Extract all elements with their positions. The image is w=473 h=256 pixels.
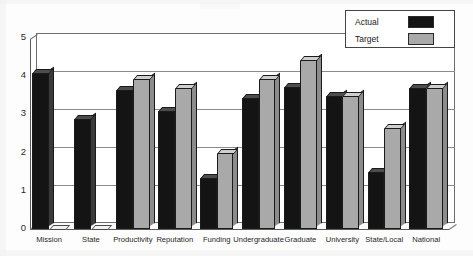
chart-legend: Actual Target	[345, 10, 455, 48]
bar-actual-state-local	[368, 172, 385, 229]
y-tick-2: 2	[12, 147, 26, 157]
bar-target-university	[342, 96, 359, 229]
legend-row-target: Target	[346, 30, 454, 48]
y-tick-3: 3	[12, 108, 26, 118]
bar-side-face	[91, 113, 96, 226]
y-tick-5: 5	[12, 32, 26, 42]
bar-side-face	[359, 90, 364, 226]
y-tick-1: 1	[12, 185, 26, 195]
bar-actual-mission	[32, 73, 49, 229]
bar-front-face	[32, 73, 49, 229]
bar-front-face	[242, 98, 259, 229]
bar-actual-state	[74, 119, 91, 229]
bar-target-national	[426, 88, 443, 229]
legend-label-target: Target	[355, 34, 379, 44]
bar-side-face	[192, 82, 197, 226]
legend-row-actual: Actual	[346, 13, 454, 31]
bar-front-face	[158, 111, 175, 229]
legend-swatch-target	[408, 33, 434, 45]
bar-target-productivity	[133, 79, 150, 229]
bar-target-reputation	[175, 88, 192, 229]
bar-front-face	[284, 87, 301, 230]
legend-label-actual: Actual	[355, 17, 379, 27]
bar-target-state-local	[384, 128, 401, 229]
legend-swatch-actual	[408, 16, 434, 28]
bar-front-face	[326, 96, 343, 229]
bar-actual-undergraduate	[242, 98, 259, 229]
bar-front-face	[384, 128, 401, 229]
bar-target-undergraduate	[259, 79, 276, 229]
bar-side-face	[233, 147, 238, 226]
bar-front-face	[200, 178, 217, 229]
bar-actual-university	[326, 96, 343, 229]
bar-front-face	[133, 79, 150, 229]
bar-front-face	[259, 79, 276, 229]
bar-front-face	[426, 88, 443, 229]
bar-front-face	[368, 172, 385, 229]
bar-actual-funding	[200, 178, 217, 229]
bar-actual-national	[409, 88, 426, 229]
bar-front-face	[175, 88, 192, 229]
bar-front-face	[300, 60, 317, 229]
bar-front-face	[74, 119, 91, 229]
bar-chart: 5 4 3 2 1 0 MissionStateProductivityRepu…	[0, 0, 473, 256]
bar-side-face	[317, 54, 322, 226]
bars-layer	[30, 33, 455, 229]
bar-front-face	[116, 90, 133, 229]
bar-actual-productivity	[116, 90, 133, 229]
plot-area	[30, 33, 455, 229]
bar-target-state	[91, 229, 108, 230]
bar-target-graduate	[300, 60, 317, 229]
bar-target-mission	[49, 229, 66, 230]
bar-side-face	[401, 122, 406, 226]
y-tick-4: 4	[12, 70, 26, 80]
bar-target-funding	[217, 153, 234, 229]
bar-top-face	[259, 75, 280, 80]
bar-side-face	[49, 67, 54, 226]
bar-front-face	[409, 88, 426, 229]
x-label-national: National	[386, 235, 466, 244]
bar-side-face	[275, 73, 280, 226]
bar-front-face	[342, 96, 359, 229]
bar-front-face	[217, 153, 234, 229]
bar-actual-graduate	[284, 87, 301, 230]
y-tick-0: 0	[12, 223, 26, 233]
bar-side-face	[150, 73, 155, 226]
bar-side-face	[443, 82, 448, 226]
bar-actual-reputation	[158, 111, 175, 229]
